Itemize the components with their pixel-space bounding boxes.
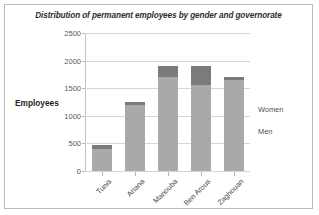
bar-segment-women [191,66,211,85]
bar-segment-men [158,77,178,171]
bar-segment-men [224,80,244,171]
legend-item-women: Women [258,105,283,114]
legend-item-men: Men [258,127,272,136]
gridline [85,61,250,62]
bar-segment-men [191,85,211,171]
y-tick-label: 2500 [64,29,81,38]
y-tick-label: 2000 [64,56,81,65]
x-axis-label-zaghouan: Zaghouan [215,177,245,207]
gridline [85,33,250,34]
y-axis-title: Employees [15,98,59,108]
bar-ben-arous[interactable] [191,66,211,171]
bar-ariana[interactable] [125,102,145,171]
plot-area: 25002000150010005000 [85,33,250,172]
x-axis-label-manouba: Manouba [151,177,179,205]
y-tick-mark [82,116,85,117]
y-tick-mark [82,33,85,34]
y-tick-label: 1000 [64,111,81,120]
y-tick-label: 500 [68,139,81,148]
y-axis-line [85,33,86,172]
x-tick-mark [135,172,136,176]
x-tick-mark [234,172,235,176]
y-tick-mark [82,88,85,89]
y-tick-mark [82,171,85,172]
x-axis-label-tunis: Tunis [94,177,113,196]
x-tick-mark [168,172,169,176]
bar-segment-women [158,66,178,77]
bar-segment-men [92,149,112,171]
bar-manouba[interactable] [158,66,178,171]
y-tick-label: 0 [77,167,81,176]
x-axis-label-ariana: Ariana [124,177,145,198]
x-tick-mark [102,172,103,176]
y-tick-label: 1500 [64,84,81,93]
y-tick-mark [82,61,85,62]
y-tick-mark [82,143,85,144]
bar-segment-men [125,105,145,171]
x-tick-mark [201,172,202,176]
chart-frame: Distribution of permanent employees by g… [4,4,313,209]
chart-title: Distribution of permanent employees by g… [5,11,312,20]
x-axis-label-ben-arous: Ben Arous [181,177,211,207]
bar-zaghouan[interactable] [224,77,244,171]
bar-tunis[interactable] [92,145,112,171]
